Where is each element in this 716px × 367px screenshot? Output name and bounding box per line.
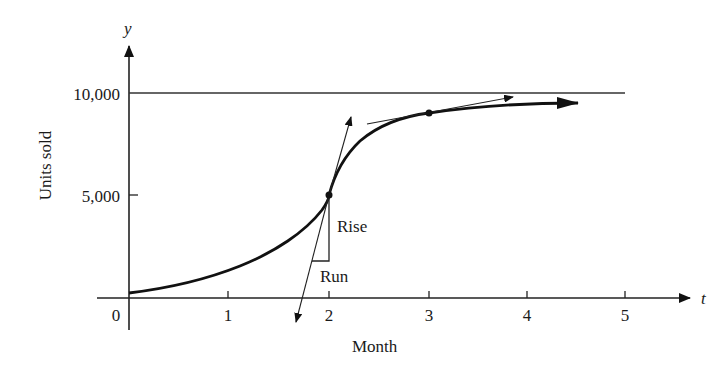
tangent-line-t3 [367,97,513,124]
xtick-label-4: 4 [517,307,537,324]
xtick-label-5: 5 [615,307,635,324]
tangent-line-t2-lower [296,195,329,322]
x-axis-title: Month [352,338,397,355]
xtick-label-2: 2 [319,307,339,324]
xtick-label-3: 3 [419,307,439,324]
ytick-label-10000: 10,000 [40,86,120,103]
t-axis-variable-label: t [701,290,706,307]
run-label: Run [320,268,348,285]
y-axis-title: Units sold [37,126,54,206]
sales-curve [129,103,578,293]
rise-label: Rise [337,218,367,235]
xtick-label-0: 0 [106,307,126,324]
point-t2 [326,192,333,199]
point-t3 [426,110,433,117]
xtick-label-1: 1 [218,307,238,324]
y-axis-variable-label: y [124,20,132,37]
x-ticks [228,291,625,298]
